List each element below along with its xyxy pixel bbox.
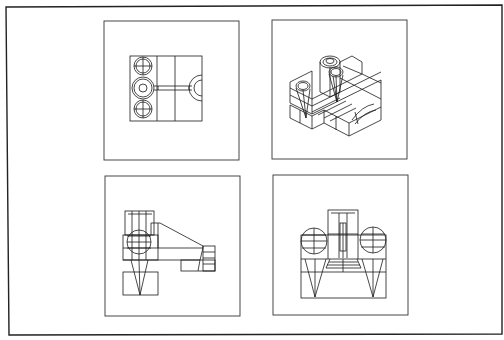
- isometric-view-panel: [272, 20, 407, 159]
- side-view-panel: [105, 176, 240, 316]
- drawing-sheet: [0, 0, 504, 340]
- front-view-panel: [273, 175, 408, 315]
- top-view-panel: [104, 21, 239, 160]
- outer-frame: [6, 5, 502, 335]
- drawing-canvas: [0, 0, 504, 340]
